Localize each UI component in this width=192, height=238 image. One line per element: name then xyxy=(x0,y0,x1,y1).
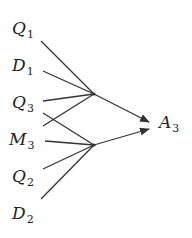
node-letter: D xyxy=(12,55,26,75)
edge-q2-to-lower xyxy=(43,145,94,169)
node-label-q1: Q1 xyxy=(12,20,34,40)
node-subscript: 2 xyxy=(27,176,34,189)
node-label-m3: M3 xyxy=(9,131,34,151)
edge-d1-to-upper xyxy=(43,71,94,94)
node-label-q2: Q2 xyxy=(12,168,34,188)
node-letter: A xyxy=(159,112,171,132)
aggregation-diagram: Q1 D1 Q3 M3 Q2 D2 A3 xyxy=(0,0,192,238)
node-subscript: 3 xyxy=(172,122,179,135)
node-letter: Q xyxy=(12,92,26,112)
node-letter: M xyxy=(9,129,26,149)
node-letter: D xyxy=(12,203,26,223)
node-subscript: 1 xyxy=(27,65,34,78)
node-subscript: 3 xyxy=(27,139,34,152)
junction-lower xyxy=(92,143,95,146)
node-letter: Q xyxy=(12,18,26,38)
node-label-q3: Q3 xyxy=(12,94,34,114)
edge-d2-to-lower xyxy=(41,145,94,199)
node-subscript: 3 xyxy=(27,102,34,115)
node-label-d1: D1 xyxy=(12,57,34,77)
edge-group xyxy=(41,41,94,199)
node-subscript: 2 xyxy=(27,213,34,226)
arrow-group xyxy=(94,94,149,145)
junction-upper xyxy=(92,92,95,95)
node-label-a3-output: A3 xyxy=(159,114,179,134)
edge-q3-cross-to-lower xyxy=(43,113,94,145)
junction-group xyxy=(92,92,95,146)
edge-m3-cross-to-upper xyxy=(43,94,94,126)
node-letter: Q xyxy=(12,166,26,186)
edge-q3-to-upper xyxy=(43,94,94,101)
node-subscript: 1 xyxy=(27,28,34,41)
node-label-d2: D2 xyxy=(12,205,34,225)
arrow-lower-to-a3 xyxy=(94,129,149,145)
arrow-upper-to-a3 xyxy=(94,94,149,122)
edge-q1-to-upper xyxy=(41,41,94,94)
edge-m3-to-lower xyxy=(45,141,94,145)
